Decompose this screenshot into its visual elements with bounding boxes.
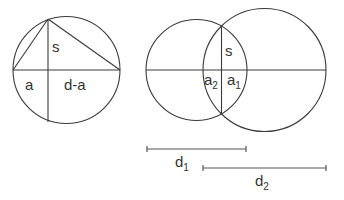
right-figure: s a2 a1 xyxy=(146,9,326,132)
label-a1: a1 xyxy=(227,71,241,91)
label-s-left: s xyxy=(52,38,60,55)
left-figure: s a d-a xyxy=(13,17,120,124)
triangle-left-side xyxy=(13,19,48,70)
measure-d2: d2 xyxy=(203,165,326,192)
label-d2: d2 xyxy=(255,172,269,192)
label-d1: d1 xyxy=(175,153,189,173)
label-s-right: s xyxy=(225,42,233,59)
geometry-diagram: s a d-a s a2 a1 d1 d2 xyxy=(0,0,344,200)
label-d-minus-a: d-a xyxy=(64,76,86,93)
label-a: a xyxy=(25,76,34,93)
measure-d1: d1 xyxy=(147,146,246,173)
